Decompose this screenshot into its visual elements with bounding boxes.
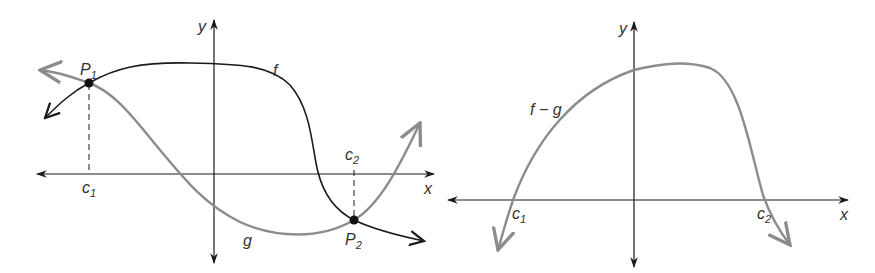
point-p1-label: P1 xyxy=(80,61,97,81)
curve-f-minus-g-label: f − g xyxy=(530,101,562,118)
c1-label: c1 xyxy=(82,179,96,199)
figure-canvas: y x P1 P2 c1 c2 f g y x f − g c1 c2 xyxy=(0,0,875,273)
left-graph: y x P1 P2 c1 c2 f g xyxy=(37,18,434,263)
point-p2 xyxy=(350,216,359,225)
x-axis-label: x xyxy=(423,180,433,197)
curve-g xyxy=(40,70,420,235)
point-p2-label: P2 xyxy=(345,231,362,251)
x-axis-label: x xyxy=(839,206,849,223)
right-graph: y x f − g c1 c2 xyxy=(448,20,849,267)
curve-g-label: g xyxy=(243,232,252,249)
y-axis-label: y xyxy=(197,18,207,35)
c2-label: c2 xyxy=(345,146,359,166)
c1-label: c1 xyxy=(512,205,526,225)
y-axis-label: y xyxy=(618,20,628,37)
curve-f-minus-g xyxy=(498,64,790,250)
